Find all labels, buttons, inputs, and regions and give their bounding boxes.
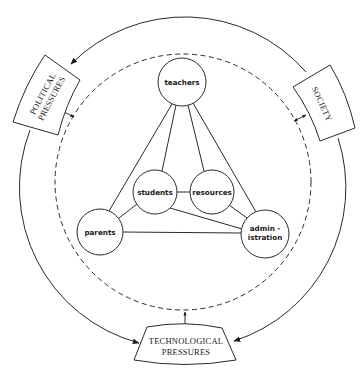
edge-students-parents bbox=[119, 204, 137, 218]
administration-label-line1: admin - bbox=[250, 224, 281, 233]
node-students: students bbox=[133, 170, 177, 214]
technological-pressures-box: TECHNOLOGICAL PRESSURES bbox=[134, 324, 236, 365]
technological-label-line1: TECHNOLOGICAL bbox=[149, 336, 223, 346]
node-teachers: teachers bbox=[158, 58, 206, 106]
node-resources: resources bbox=[190, 170, 234, 214]
edge-parents-administration bbox=[123, 232, 241, 233]
school-system-diagram: teachers students resources parents admi… bbox=[0, 0, 364, 375]
administration-label-line2: istration bbox=[248, 233, 283, 242]
resources-label: resources bbox=[192, 188, 232, 197]
node-edges bbox=[109, 103, 256, 233]
edge-teachers-resources bbox=[188, 105, 204, 171]
society-influence-connector bbox=[294, 115, 306, 121]
edge-teachers-students bbox=[162, 105, 176, 171]
node-parents: parents bbox=[77, 209, 123, 255]
edge-resources-administration bbox=[229, 205, 247, 218]
society-box: SOCIETY bbox=[293, 65, 355, 141]
technological-label-line2: PRESSURES bbox=[162, 347, 211, 357]
node-administration: admin - istration bbox=[241, 210, 289, 258]
teachers-label: teachers bbox=[164, 78, 199, 87]
parents-label: parents bbox=[84, 228, 115, 237]
students-label: students bbox=[137, 188, 173, 197]
